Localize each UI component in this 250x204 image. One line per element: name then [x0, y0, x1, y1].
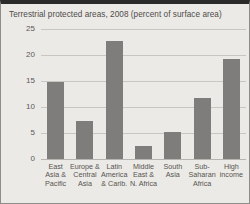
y-axis-tick-label: 15	[5, 77, 35, 85]
x-axis-tick-label: South Asia	[156, 163, 189, 180]
x-axis-tick-label: East Asia & Pacific	[39, 163, 72, 188]
axis-baseline	[41, 159, 246, 160]
gridline	[41, 29, 246, 30]
gridline	[41, 107, 246, 108]
y-axis-tick-label: 10	[5, 103, 35, 111]
x-axis-tick-label: High income	[215, 163, 248, 180]
bar	[194, 98, 211, 159]
bar	[164, 132, 181, 159]
y-axis-tick-label: 5	[5, 129, 35, 137]
gridline	[41, 133, 246, 134]
plot-area	[41, 29, 246, 159]
gridline	[41, 81, 246, 82]
y-axis-tick-label: 25	[5, 25, 35, 33]
bar	[135, 146, 152, 159]
gridline	[41, 55, 246, 56]
y-axis-tick-label: 20	[5, 51, 35, 59]
chart-title: Terrestrial protected areas, 2008 (perce…	[9, 10, 222, 19]
chart-container: Terrestrial protected areas, 2008 (perce…	[0, 0, 250, 204]
bar	[47, 82, 64, 159]
bar	[223, 59, 240, 159]
bar	[106, 41, 123, 159]
x-axis-tick-label: Sub- Saharan Africa	[185, 163, 218, 188]
bar	[76, 121, 93, 159]
y-axis-tick-label: 0	[5, 155, 35, 163]
